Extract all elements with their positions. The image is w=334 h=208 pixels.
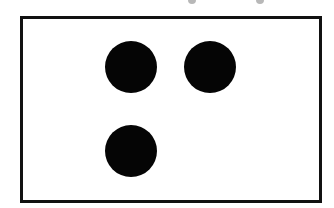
dot-bottom-left — [105, 125, 157, 177]
cropped-mark-right — [256, 0, 264, 4]
dot-frame — [20, 16, 322, 203]
cropped-mark-left — [188, 0, 196, 4]
dot-top-left — [105, 41, 157, 93]
dot-top-right — [184, 41, 236, 93]
